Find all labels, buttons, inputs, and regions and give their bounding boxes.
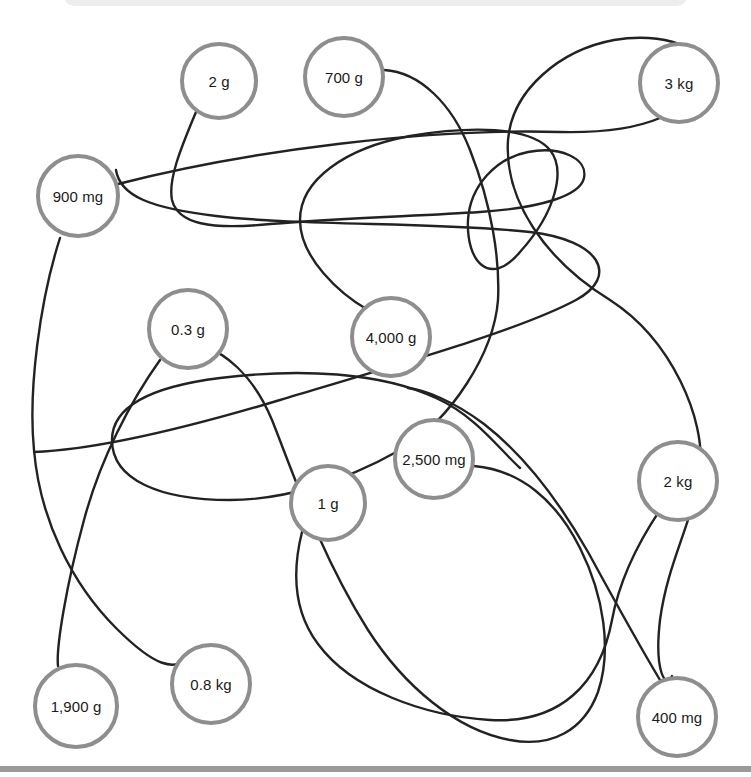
- node-label: 0.8 kg: [190, 677, 231, 692]
- bottom-strip: [0, 772, 751, 777]
- node-1-g[interactable]: 1 g: [289, 464, 367, 542]
- node-700-g[interactable]: 700 g: [303, 36, 385, 118]
- node-label: 1 g: [317, 496, 338, 511]
- connector-lines: [0, 0, 751, 777]
- node-2-g[interactable]: 2 g: [180, 42, 258, 120]
- node-900-mg[interactable]: 900 mg: [36, 154, 120, 238]
- connector-path: [206, 348, 605, 742]
- node-3-kg[interactable]: 3 kg: [638, 42, 720, 124]
- node-1900-g[interactable]: 1,900 g: [33, 663, 119, 749]
- node-label: 700 g: [325, 70, 363, 85]
- node-400-mg[interactable]: 400 mg: [636, 676, 718, 758]
- node-label: 4,000 g: [366, 330, 417, 345]
- node-label: 2 kg: [664, 474, 693, 489]
- node-label: 3 kg: [665, 76, 694, 91]
- puzzle-canvas: 2 g 700 g 3 kg 900 mg 0.3 g 4,000 g 2,50…: [0, 0, 751, 777]
- node-0-3-g[interactable]: 0.3 g: [147, 288, 229, 370]
- node-label: 1,900 g: [51, 699, 102, 714]
- node-label: 0.3 g: [171, 322, 205, 337]
- node-0-8-kg[interactable]: 0.8 kg: [170, 643, 252, 725]
- node-4000-g[interactable]: 4,000 g: [350, 296, 432, 378]
- connector-path: [296, 510, 660, 720]
- node-label: 2,500 mg: [402, 452, 465, 467]
- node-label: 900 mg: [53, 189, 104, 204]
- node-2-kg[interactable]: 2 kg: [637, 440, 719, 522]
- node-2500-mg[interactable]: 2,500 mg: [393, 418, 475, 500]
- connector-path: [34, 170, 599, 452]
- node-label: 400 mg: [652, 710, 703, 725]
- node-label: 2 g: [208, 74, 229, 89]
